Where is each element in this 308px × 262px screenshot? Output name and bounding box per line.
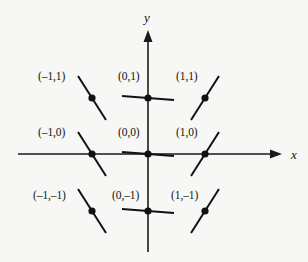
lattice-point-dot	[144, 150, 151, 157]
x-axis-label: x	[291, 148, 297, 161]
point-label: (1,–1)	[171, 190, 198, 202]
slope-field-figure: x y (–1,1)(0,1)(1,1)(–1,0)(0,0)(1,0)(–1,…	[0, 0, 308, 262]
lattice-point-dot	[201, 150, 208, 157]
point-label: (1,1)	[176, 71, 198, 83]
point-label: (1,0)	[176, 127, 198, 139]
axes-group	[18, 30, 282, 252]
lattice-point-dot	[144, 94, 151, 101]
lattice-point-dot	[201, 94, 208, 101]
lattice-point-dot	[88, 94, 95, 101]
y-axis-label: y	[144, 11, 150, 24]
point-label: (0,0)	[118, 127, 140, 139]
y-axis-arrowhead	[144, 30, 153, 42]
point-label: (0,–1)	[112, 190, 139, 202]
lattice-point-dot	[144, 207, 151, 214]
point-label: (0,1)	[118, 71, 140, 83]
point-label: (–1,0)	[38, 127, 65, 139]
point-label: (–1,–1)	[33, 190, 66, 202]
lattice-point-dot	[88, 150, 95, 157]
x-axis-arrowhead	[270, 150, 282, 159]
lattice-point-dot	[201, 207, 208, 214]
point-label: (–1,1)	[38, 71, 65, 83]
lattice-point-dot	[88, 207, 95, 214]
